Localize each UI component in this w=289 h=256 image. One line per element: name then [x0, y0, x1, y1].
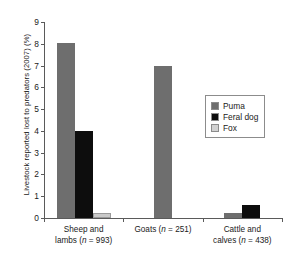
y-axis-tick-label: 8 [34, 39, 39, 49]
legend-item: Fox [211, 122, 258, 133]
legend-item-label: Feral dog [223, 112, 258, 122]
legend-item-label: Fox [223, 123, 237, 133]
x-axis-separator-tick [123, 218, 124, 222]
y-axis-tick-label: 4 [34, 126, 39, 136]
legend-item: Feral dog [211, 111, 258, 122]
y-axis-title: Livestock reported lost to predators (20… [22, 5, 31, 225]
bar-fox-0 [93, 213, 111, 218]
bar-chart: Livestock reported lost to predators (20… [0, 0, 289, 256]
y-axis-tick-mark [41, 66, 44, 67]
legend-swatch-icon [211, 124, 219, 132]
y-axis-tick-mark [41, 174, 44, 175]
y-axis-tick-label: 0 [34, 213, 39, 223]
y-axis-tick-label: 7 [34, 61, 39, 71]
y-axis-tick-label: 1 [34, 191, 39, 201]
y-axis-tick-mark [41, 44, 44, 45]
x-axis-line [44, 218, 282, 219]
x-axis-separator-tick [282, 218, 283, 222]
legend-swatch-icon [211, 113, 219, 121]
x-axis-separator-tick [44, 218, 45, 222]
x-axis-category-label: Cattle andcalves (n = 438) [191, 224, 289, 246]
legend-item: Puma [211, 100, 258, 111]
x-axis-separator-tick [203, 218, 204, 222]
y-axis-tick-mark [41, 196, 44, 197]
y-axis-tick-label: 3 [34, 148, 39, 158]
bar-puma-1 [154, 66, 172, 218]
legend: PumaFeral dogFox [205, 95, 265, 138]
x-axis-category-label-line: Cattle and [191, 224, 289, 235]
legend-item-label: Puma [223, 101, 245, 111]
y-axis-tick-label: 9 [34, 17, 39, 27]
y-axis-tick-mark [41, 131, 44, 132]
bar-puma-2 [224, 213, 242, 218]
x-axis-category-label-line: lambs (n = 993) [32, 235, 135, 246]
x-axis-category-label-line: calves (n = 438) [191, 235, 289, 246]
y-axis-tick-mark [41, 87, 44, 88]
legend-swatch-icon [211, 102, 219, 110]
y-axis-tick-label: 5 [34, 104, 39, 114]
y-axis-line [44, 22, 45, 218]
bar-puma-0 [57, 43, 75, 218]
y-axis-tick-label: 2 [34, 169, 39, 179]
y-axis-tick-label: 6 [34, 82, 39, 92]
y-axis-tick-mark [41, 22, 44, 23]
y-axis-tick-mark [41, 109, 44, 110]
bar-feraldog-2 [242, 205, 260, 218]
y-axis-tick-mark [41, 153, 44, 154]
bar-feraldog-0 [75, 131, 93, 218]
